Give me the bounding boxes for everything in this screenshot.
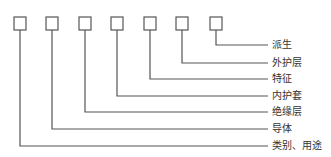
- connector-6: [182, 30, 268, 63]
- connector-7: [216, 30, 268, 45]
- label-inner-sheath: 内护套: [272, 90, 302, 102]
- label-conductor: 导体: [272, 123, 292, 135]
- label-insulation: 绝缘层: [272, 106, 302, 118]
- code-box-7: [210, 17, 222, 30]
- connector-5: [150, 30, 268, 79]
- code-box-3: [79, 17, 91, 30]
- label-category-usage: 类别、用途: [272, 140, 322, 152]
- code-box-2: [46, 17, 58, 30]
- label-feature: 特征: [272, 73, 292, 85]
- code-box-1: [14, 17, 26, 30]
- code-box-5: [144, 17, 156, 30]
- code-box-6: [176, 17, 188, 30]
- label-outer-sheath: 外护层: [272, 57, 302, 69]
- connector-3: [85, 30, 268, 112]
- code-box-4: [111, 17, 123, 30]
- label-derivative: 派生: [272, 39, 292, 51]
